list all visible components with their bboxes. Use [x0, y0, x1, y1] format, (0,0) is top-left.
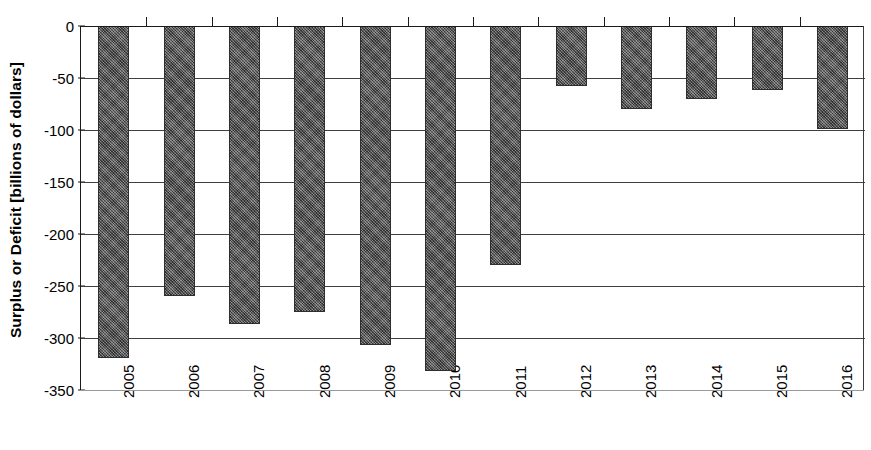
y-tick-label: -100 — [44, 122, 74, 139]
gridline — [81, 286, 865, 287]
bar-2007 — [229, 26, 260, 324]
bar-2012 — [556, 26, 587, 86]
gridline — [81, 130, 865, 131]
gridline — [81, 182, 865, 183]
deficit-bar-chart: Surplus or Deficit [billions of dollars]… — [0, 0, 871, 450]
x-tick-label-text: 2011 — [512, 366, 529, 398]
bar-2010 — [425, 26, 456, 371]
y-axis-tick-labels: 0-50-100-150-200-250-300-350 — [26, 0, 78, 400]
x-tick-mark — [734, 17, 735, 26]
gridline — [81, 78, 865, 79]
x-tick-mark — [538, 17, 539, 26]
bar-2009 — [360, 26, 391, 345]
x-tick-label-text: 2007 — [250, 365, 267, 398]
x-tick-mark — [473, 17, 474, 26]
bar-2008 — [294, 26, 325, 312]
x-tick-label-text: 2016 — [838, 365, 855, 398]
bar-2011 — [490, 26, 521, 265]
x-tick-label-text: 2013 — [642, 365, 659, 398]
bar-2006 — [164, 26, 195, 296]
x-tick-mark — [669, 17, 670, 26]
x-tick-mark — [212, 17, 213, 26]
gridline — [81, 338, 865, 339]
y-axis-title-text: Surplus or Deficit [billions of dollars] — [7, 62, 25, 338]
bar-2014 — [686, 26, 717, 99]
x-tick-label-text: 2015 — [773, 365, 790, 398]
x-tick-mark — [800, 17, 801, 26]
x-tick-label-text: 2005 — [120, 365, 137, 398]
bar-2013 — [621, 26, 652, 109]
plot-area — [80, 26, 865, 390]
x-tick-label-text: 2008 — [316, 365, 333, 398]
x-tick-mark — [604, 17, 605, 26]
y-tick-label: -250 — [44, 278, 74, 295]
x-tick-mark — [408, 17, 409, 26]
bar-2015 — [752, 26, 783, 90]
bar-2005 — [98, 26, 129, 358]
x-tick-label-text: 2009 — [381, 365, 398, 398]
x-tick-mark — [342, 17, 343, 26]
plot-top-border — [80, 26, 864, 27]
gridline — [81, 234, 865, 235]
y-tick-label: 0 — [66, 18, 74, 35]
y-tick-label: -50 — [52, 70, 74, 87]
x-tick-label-text: 2014 — [708, 365, 725, 398]
x-tick-mark — [146, 17, 147, 26]
x-tick-label-text: 2012 — [577, 365, 594, 398]
x-axis-tick-labels: 2005200620072008200920102011201220132014… — [80, 390, 864, 450]
plot-bottom-border — [80, 390, 864, 391]
y-tick-label: -300 — [44, 330, 74, 347]
y-tick-label: -200 — [44, 226, 74, 243]
y-tick-label: -350 — [44, 382, 74, 399]
y-tick-label: -150 — [44, 174, 74, 191]
plot-right-border — [863, 26, 864, 390]
bar-2016 — [817, 26, 848, 129]
x-tick-label-text: 2006 — [185, 365, 202, 398]
x-tick-mark — [277, 17, 278, 26]
